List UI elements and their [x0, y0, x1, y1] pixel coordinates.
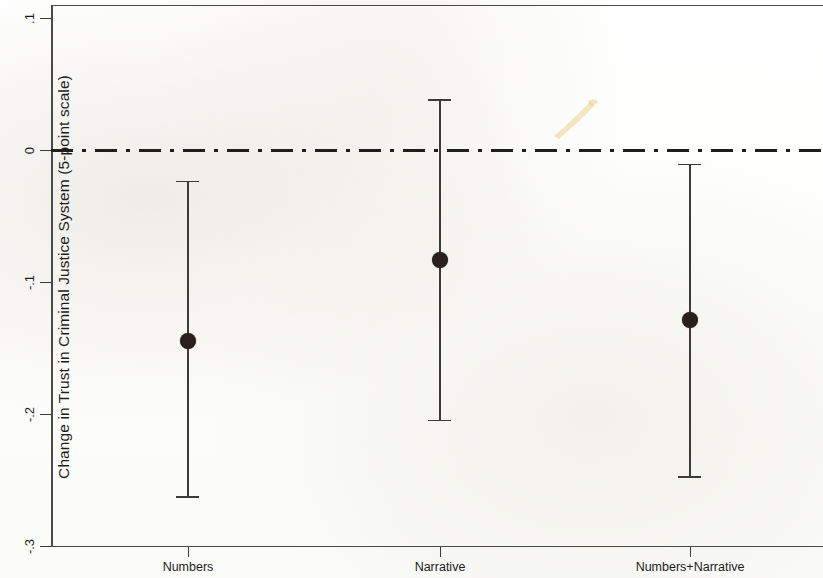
y-tick-label-1: 0: [22, 134, 37, 168]
y-tick-mark-4: [40, 546, 51, 547]
data-point-numbers-narrative: [682, 312, 698, 328]
x-tick-mark-0: [188, 547, 189, 557]
y-tick-mark-1: [40, 150, 51, 151]
y-tick-mark-3: [40, 414, 51, 415]
paper-texture: [0, 0, 823, 578]
error-bar-cap-lower-narrative: [428, 420, 451, 422]
y-tick-label-4: -.3: [22, 530, 37, 564]
plot-frame-top: [51, 5, 823, 6]
data-point-numbers: [180, 333, 196, 349]
x-tick-mark-2: [690, 547, 691, 557]
y-tick-label-2: -.1: [22, 266, 37, 300]
x-tick-label-narrative: Narrative: [415, 560, 466, 574]
error-bar-cap-upper-numbers-narrative: [678, 164, 701, 166]
y-tick-mark-2: [40, 282, 51, 283]
y-tick-label-3: -.2: [22, 398, 37, 432]
chart-figure: Change in Trust in Criminal Justice Syst…: [0, 0, 823, 578]
error-bar-cap-upper-numbers: [176, 181, 199, 183]
error-bar-cap-lower-numbers-narrative: [678, 476, 701, 478]
error-bar-cap-upper-narrative: [428, 99, 451, 101]
error-bar-cap-lower-numbers: [176, 496, 199, 498]
x-axis-line: [51, 546, 823, 547]
x-tick-label-numbers-narrative: Numbers+Narrative: [636, 560, 745, 574]
y-axis-line: [51, 5, 53, 547]
x-tick-mark-1: [440, 547, 441, 557]
y-tick-label-0: .1: [22, 2, 37, 36]
y-tick-mark-0: [40, 18, 51, 19]
x-tick-label-numbers: Numbers: [163, 560, 214, 574]
y-axis-title: Change in Trust in Criminal Justice Syst…: [55, 17, 73, 537]
scan-smudge-artifact: [548, 96, 608, 140]
data-point-narrative: [432, 252, 448, 268]
zero-reference-line: [51, 149, 823, 152]
